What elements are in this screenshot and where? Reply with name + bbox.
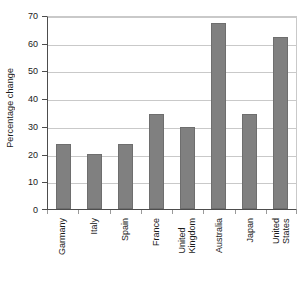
x-axis-label-slot: Garmany	[47, 215, 78, 285]
bar-slot	[110, 17, 141, 209]
x-axis-label-slot: Italy	[78, 215, 109, 285]
x-axis-tick-mark	[141, 210, 142, 214]
bar-chart: Percentage change 010203040506070 Garman…	[0, 0, 304, 285]
bar-series	[48, 17, 296, 209]
y-axis-tick-label: 20	[28, 150, 38, 159]
x-axis-category-label: Spain	[120, 218, 130, 241]
x-axis-category-label: United States	[271, 218, 292, 244]
x-axis-category-label: France	[151, 218, 161, 246]
x-axis-category-label: Japan	[245, 218, 255, 243]
x-axis-category-label: Italy	[89, 218, 99, 235]
y-axis-tick-label: 50	[28, 67, 38, 76]
bar-slot	[141, 17, 172, 209]
x-axis-tick-mark	[266, 210, 267, 214]
bar	[87, 154, 102, 209]
x-axis-tick-mark	[203, 210, 204, 214]
y-axis-tick-labels: 010203040506070	[20, 16, 42, 210]
bar	[180, 127, 195, 209]
x-axis-category-label: United Kingdom	[177, 218, 198, 254]
y-axis-title-text: Percentage change	[5, 68, 15, 148]
y-axis-tick-label: 30	[28, 122, 38, 131]
y-axis-tick-label: 40	[28, 95, 38, 104]
x-axis-tick-marks	[47, 210, 297, 214]
x-axis-category-labels: GarmanyItalySpainFranceUnited KingdomAus…	[47, 215, 297, 285]
x-axis-category-label: Garmany	[57, 218, 67, 255]
y-axis-tick-label: 0	[33, 206, 38, 215]
x-axis-tick-mark	[78, 210, 79, 214]
bar-slot	[79, 17, 110, 209]
bar	[211, 23, 226, 209]
bar	[149, 114, 164, 209]
x-axis-tick-mark	[110, 210, 111, 214]
x-axis-tick-mark	[296, 210, 297, 214]
x-axis-tick-mark	[235, 210, 236, 214]
x-axis-tick-mark	[172, 210, 173, 214]
bar	[118, 144, 133, 209]
bar-slot	[203, 17, 234, 209]
x-axis-label-slot: Japan	[235, 215, 266, 285]
bar	[273, 37, 288, 209]
bar-slot	[265, 17, 296, 209]
bar	[56, 144, 71, 209]
y-axis-title: Percentage change	[0, 0, 20, 215]
bar-slot	[234, 17, 265, 209]
x-axis-category-label: Australia	[214, 218, 224, 253]
y-axis-tick-label: 10	[28, 178, 38, 187]
bar-slot	[48, 17, 79, 209]
plot-area	[47, 16, 297, 210]
x-axis-label-slot: Spain	[110, 215, 141, 285]
bar-slot	[172, 17, 203, 209]
x-axis-label-slot: United Kingdom	[172, 215, 203, 285]
x-axis-label-slot: Australia	[203, 215, 234, 285]
x-axis-label-slot: France	[141, 215, 172, 285]
x-axis-label-slot: United States	[266, 215, 297, 285]
y-axis-tick-label: 70	[28, 12, 38, 21]
bar	[242, 114, 257, 209]
x-axis-tick-mark	[47, 210, 48, 214]
y-axis-tick-label: 60	[28, 39, 38, 48]
